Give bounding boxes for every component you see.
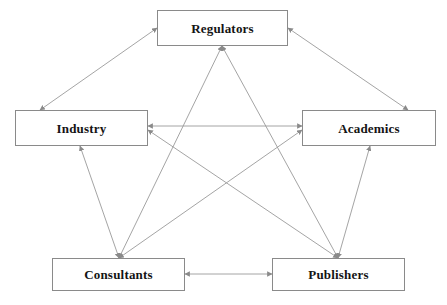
edge-academics-publishers [338,146,370,258]
node-academics[interactable]: Academics [302,110,436,146]
edges-group [40,28,408,274]
edge-industry-regulators [40,28,157,110]
node-label-consultants: Consultants [84,268,153,281]
node-publishers[interactable]: Publishers [272,258,405,291]
edge-regulators-academics [288,28,408,110]
edge-publishers-regulators [222,46,338,258]
node-label-industry: Industry [56,122,106,135]
node-regulators[interactable]: Regulators [157,10,288,46]
edge-consultants-regulators [119,46,222,258]
node-label-academics: Academics [338,122,400,135]
edge-industry-consultants [80,146,119,258]
edge-consultants-academics [119,130,302,258]
node-label-publishers: Publishers [308,268,369,281]
node-consultants[interactable]: Consultants [52,258,185,291]
node-label-regulators: Regulators [191,22,254,35]
stakeholder-network-diagram: Regulators Industry Academics Consultant… [0,0,447,305]
edge-publishers-industry [148,130,338,258]
node-industry[interactable]: Industry [15,110,148,146]
